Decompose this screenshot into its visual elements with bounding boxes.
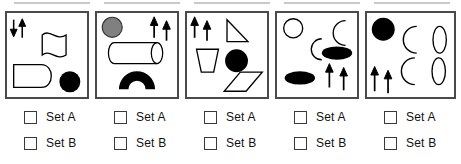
stimulus-panel-5 (365, 11, 456, 99)
checkbox-row-set-b[interactable]: Set B (204, 130, 294, 156)
trapezoid-cup-shape (197, 49, 219, 72)
stimulus-panel-3 (185, 11, 269, 99)
checkbox-label-set-a: Set A (406, 110, 436, 124)
checkbox-row-set-b[interactable]: Set B (384, 130, 461, 156)
crescent-moon-shape (311, 39, 321, 60)
checkbox-group-panel-1: Set A Set B (24, 104, 114, 156)
rounded-d-shape (14, 65, 52, 88)
crescent-moon-shape (333, 21, 345, 46)
filled-circle-shape (59, 71, 80, 92)
checkbox-set-b[interactable] (204, 137, 217, 150)
checkbox-label-set-b: Set B (406, 136, 436, 150)
up-arrow-icon (340, 67, 348, 90)
checkbox-label-set-b: Set B (136, 136, 166, 150)
checkbox-label-set-a: Set A (46, 110, 76, 124)
up-arrow-icon (191, 17, 199, 38)
up-arrow-icon (163, 21, 171, 41)
crescent-moon-shape (403, 26, 416, 53)
open-vertical-ellipse-shape (433, 26, 446, 53)
stimulus-panel-2 (95, 11, 179, 99)
checkbox-row-set-a[interactable]: Set A (114, 104, 204, 130)
grey-circle-shape (102, 17, 122, 37)
checkbox-group-panel-2: Set A Set B (114, 104, 204, 156)
checkbox-label-set-b: Set B (316, 136, 346, 150)
task-sheet: Set A Set B Set A Set B Set A Set B Set … (0, 0, 461, 164)
checkbox-label-set-a: Set A (226, 110, 256, 124)
stimulus-panel-1 (5, 11, 89, 99)
checkbox-set-a[interactable] (114, 111, 127, 124)
open-circle-shape (284, 19, 303, 38)
crescent-moon-shape (401, 58, 414, 85)
checkbox-label-set-a: Set A (316, 110, 346, 124)
stimulus-panel-4 (275, 11, 359, 99)
open-vertical-ellipse-shape (432, 58, 445, 85)
filled-circle-shape (225, 49, 248, 72)
checkbox-group-panel-4: Set A Set B (294, 104, 384, 156)
checkbox-row-set-a[interactable]: Set A (294, 104, 384, 130)
checkbox-label-set-b: Set B (46, 136, 76, 150)
checkbox-row-set-a[interactable]: Set A (24, 104, 114, 130)
diamond-shape (224, 72, 262, 91)
checkbox-label-set-a: Set A (136, 110, 166, 124)
filled-ellipse-shape (322, 46, 352, 59)
checkbox-set-a[interactable] (24, 111, 37, 124)
checkbox-set-b[interactable] (24, 137, 37, 150)
up-arrow-icon (150, 17, 158, 38)
right-triangle-shape (227, 20, 248, 42)
up-arrow-icon (19, 19, 26, 38)
checkbox-set-a[interactable] (294, 111, 307, 124)
checkbox-row-set-b[interactable]: Set B (114, 130, 204, 156)
up-arrow-icon (203, 21, 211, 41)
up-arrow-icon (384, 70, 392, 93)
checkbox-group-panel-5: Set A Set B (384, 104, 461, 156)
filled-arch-shape (119, 71, 155, 89)
filled-circle-shape (372, 18, 395, 41)
checkbox-set-b[interactable] (384, 137, 397, 150)
checkbox-row-set-a[interactable]: Set A (384, 104, 461, 130)
checkbox-set-a[interactable] (384, 111, 397, 124)
up-arrow-icon (371, 66, 379, 91)
up-arrow-icon (326, 64, 334, 88)
down-arrow-icon (10, 20, 17, 37)
checkbox-group-panel-3: Set A Set B (204, 104, 294, 156)
filled-ellipse-shape (285, 71, 315, 84)
checkbox-set-a[interactable] (204, 111, 217, 124)
checkbox-set-b[interactable] (114, 137, 127, 150)
wavy-flag-shape (42, 33, 66, 57)
checkbox-row-set-b[interactable]: Set B (24, 130, 114, 156)
checkbox-row-set-b[interactable]: Set B (294, 130, 384, 156)
checkbox-label-set-b: Set B (226, 136, 256, 150)
checkbox-set-b[interactable] (294, 137, 307, 150)
cylinder-shape (108, 43, 162, 64)
checkbox-row-set-a[interactable]: Set A (204, 104, 294, 130)
